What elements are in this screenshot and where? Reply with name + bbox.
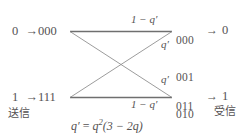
label-top-cross-probability: q′ xyxy=(161,39,169,50)
dest-top-arrow-icon: → xyxy=(206,24,218,36)
source-top-arrow-icon: → xyxy=(25,24,38,38)
source-top-node: 0 →000 xyxy=(12,25,57,38)
channel-diagram: 0 →000 1 →111 送信 1 − q′ q′ q′ 1 − q′ 000… xyxy=(0,0,251,139)
label-top-straight-probability: 1 − q′ xyxy=(131,14,157,25)
dest-bottom-arrow-icon: → xyxy=(206,90,218,102)
transmit-caption: 送信 xyxy=(8,108,30,119)
dest-top-bit-0: 000 xyxy=(176,34,194,46)
probability-formula: q′ = q2(3 − 2q) xyxy=(71,118,143,132)
source-top-codeword: 000 xyxy=(38,24,57,38)
dest-top-symbol: 0 xyxy=(222,24,228,37)
source-bottom-codeword: 111 xyxy=(38,90,56,104)
receive-caption: 受信 xyxy=(214,106,236,117)
formula-factor: (3 − 2q) xyxy=(103,119,143,133)
source-bottom-arrow-icon: → xyxy=(25,90,38,104)
dest-bottom-bit-0: 011 xyxy=(176,100,194,112)
dest-bottom-symbol: 1 xyxy=(222,90,228,103)
source-bottom-symbol: 1 xyxy=(12,90,18,104)
source-bottom-node: 1 →111 xyxy=(12,91,56,104)
formula-equals: = xyxy=(83,119,90,133)
source-top-symbol: 0 xyxy=(12,24,18,38)
dest-bottom-bit-1: 101 xyxy=(176,137,194,139)
label-bottom-straight-probability: 1 − q′ xyxy=(131,99,157,110)
dest-bottom-bit-list: 011 101 110 111 xyxy=(176,75,194,139)
label-bottom-cross-probability: q′ xyxy=(161,74,169,85)
formula-lhs: q′ xyxy=(71,119,80,133)
